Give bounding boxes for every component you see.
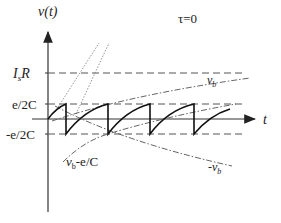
level-neg-e2c-label: -e/2C — [6, 127, 35, 142]
x-axis-label: t — [263, 112, 268, 127]
coulomb-blockade-diagram: v(t) t τ=0 IsR e/2C -e/2C vb -vb vb-e/C — [0, 0, 281, 223]
level-isr-label: IsR — [12, 66, 30, 83]
neg-vb-label: -vb — [208, 160, 221, 176]
vb-label: vb — [207, 73, 216, 89]
vb-curve — [52, 78, 250, 121]
condition-label: τ=0 — [178, 11, 197, 26]
level-e2c-label: e/2C — [12, 97, 37, 112]
y-axis-label: v(t) — [38, 4, 58, 20]
dotted-line-1 — [55, 43, 99, 112]
vb-minus-ec-label: vb-e/C — [66, 154, 98, 171]
